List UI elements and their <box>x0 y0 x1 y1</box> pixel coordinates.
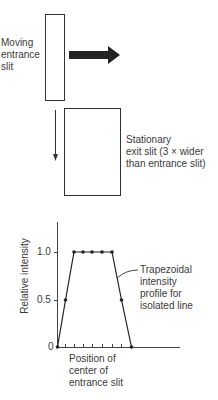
right-arrow-icon <box>69 46 120 64</box>
annotation-line-3: profile for <box>140 288 182 300</box>
entrance-slit-label-1: Moving <box>1 37 33 49</box>
exit-slit-label-3: than entrance slit) <box>126 158 206 170</box>
x-axis-label-1: Position of <box>69 353 116 365</box>
exit-slit-label-1: Stationary <box>126 134 171 146</box>
entrance-slit-label-2: entrance <box>1 49 40 61</box>
data-points <box>56 250 134 349</box>
annotation-leader <box>117 270 138 278</box>
entrance-slit <box>46 15 65 101</box>
ytick-0: 0 <box>48 341 54 353</box>
annotation-line-1: Trapezoidal <box>140 264 192 276</box>
down-arrow-icon <box>53 110 58 161</box>
x-axis-label-2: center of <box>69 365 108 377</box>
annotation-line-2: intensity <box>140 276 177 288</box>
entrance-slit-label-3: slit <box>1 61 13 73</box>
exit-slit-label-2: exit slit (3 × wider <box>126 146 204 158</box>
annotation-line-4: isolated line <box>140 300 193 312</box>
y-axis-label: Relative intensity <box>19 231 31 321</box>
ytick-1: 1.0 <box>37 246 51 258</box>
exit-slit <box>65 109 121 196</box>
x-axis-label-3: entrance slit <box>69 377 123 389</box>
ytick-05: 0.5 <box>37 294 51 306</box>
